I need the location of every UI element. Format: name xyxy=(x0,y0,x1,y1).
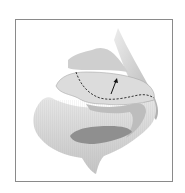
nose-anatomy-illustration xyxy=(0,0,185,193)
